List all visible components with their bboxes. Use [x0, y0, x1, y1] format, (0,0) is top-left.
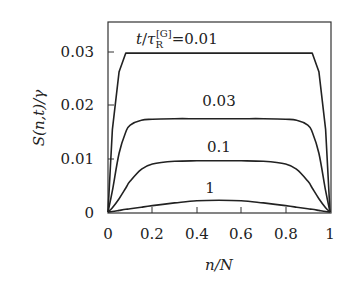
curve-label-003: 0.03: [202, 92, 235, 110]
curve-series-003: [108, 119, 330, 212]
x-tick-08: 0.8: [274, 225, 298, 243]
x-axis-title: n/N: [205, 256, 234, 274]
y-tick-001: 0.01: [61, 150, 94, 168]
y-tick-labels: 0.03 0.02 0.01 0: [61, 43, 94, 222]
curve-label-01: 0.1: [207, 138, 231, 156]
curves: [108, 53, 330, 212]
plot-frame: [108, 22, 331, 213]
curve-series-001: [108, 53, 330, 212]
x-ticks: [152, 207, 286, 213]
y-tick-003: 0.03: [61, 43, 94, 61]
x-tick-06: 0.6: [229, 225, 253, 243]
y-axis-title: S(n,t)/γ: [30, 90, 48, 146]
x-tick-04: 0.4: [185, 225, 209, 243]
y-tick-0: 0: [84, 204, 94, 222]
curve-label-1: 1: [205, 179, 215, 197]
x-tick-1: 1: [325, 225, 335, 243]
curve-label-001: t/τR[G]=0.01: [136, 28, 218, 50]
chart: 0.03 0.02 0.01 0 0 0.2 0.4 0.6 0.8 1 S(n…: [0, 0, 355, 292]
y-tick-002: 0.02: [61, 96, 94, 114]
curve-series-1: [108, 200, 330, 212]
curve-series-01: [108, 161, 330, 212]
x-tick-02: 0.2: [140, 225, 164, 243]
x-tick-labels: 0 0.2 0.4 0.6 0.8 1: [103, 225, 335, 243]
x-tick-0: 0: [103, 225, 113, 243]
